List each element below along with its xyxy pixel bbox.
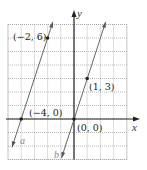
arrowhead-icon xyxy=(102,22,106,28)
line-label-b: b xyxy=(54,149,59,160)
line-label-a: a xyxy=(20,135,25,146)
point-label-a2: (−2, 6) xyxy=(13,31,47,42)
data-point xyxy=(19,117,23,121)
arrowhead-icon xyxy=(49,22,53,28)
y-axis-label: y xyxy=(76,7,82,19)
point-label-a1: (−4, 0) xyxy=(29,107,63,118)
data-point xyxy=(72,117,76,121)
arrowhead-icon xyxy=(12,141,16,147)
coordinate-plane: x y (−2, 6) (−4, 0) (0, 0) (1, 3) a b xyxy=(0,0,147,170)
x-axis-label: x xyxy=(131,121,137,133)
data-point xyxy=(85,77,89,81)
point-label-b2: (1, 3) xyxy=(89,81,115,92)
y-axis-arrow-icon xyxy=(72,10,77,17)
arrowhead-icon xyxy=(61,152,65,158)
point-label-b1: (0, 0) xyxy=(77,122,103,133)
